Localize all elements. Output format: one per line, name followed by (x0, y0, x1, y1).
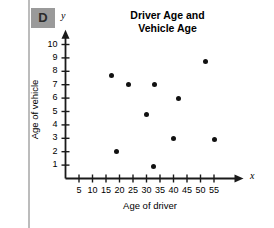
y-tick-label: 2 (44, 146, 58, 156)
y-tick-label: 8 (44, 65, 58, 75)
y-axis-letter: y (61, 10, 65, 21)
scatter-plot-figure: D Driver Age and Vehicle Age 51015202530… (0, 0, 274, 228)
data-point (109, 73, 114, 78)
x-tick-label: 55 (206, 185, 222, 195)
y-tick-label: 1 (44, 159, 58, 169)
x-axis-letter: x (250, 170, 254, 181)
y-tick-label: 10 (44, 39, 58, 49)
x-axis-label: Age of driver (95, 200, 205, 211)
y-tick-label: 4 (44, 119, 58, 129)
y-tick-label: 5 (44, 106, 58, 116)
y-tick-label: 9 (44, 52, 58, 62)
y-tick-label: 7 (44, 79, 58, 89)
data-point (212, 137, 217, 142)
plot-area: 510152025303540455055 12345678910 y x Ag… (0, 0, 274, 228)
data-point (151, 164, 156, 169)
y-tick-label: 3 (44, 132, 58, 142)
y-tick-label: 6 (44, 92, 58, 102)
y-axis-label: Age of vehicle (29, 65, 40, 155)
